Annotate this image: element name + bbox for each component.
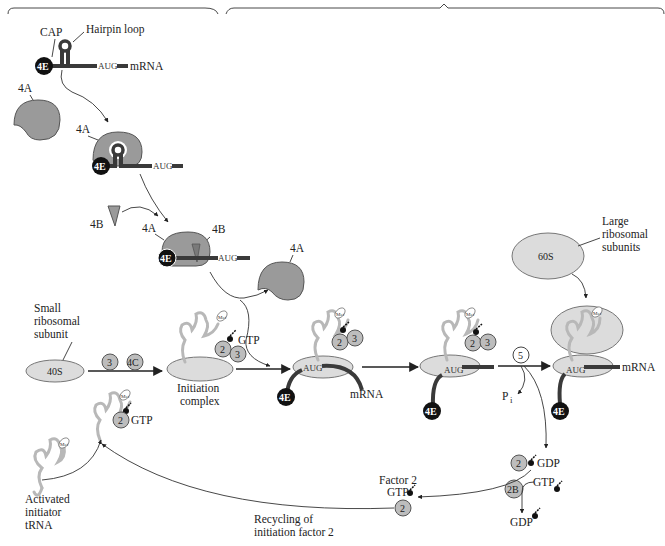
factor-4a-label: 4A <box>142 222 157 234</box>
factor-4e-label: 4E <box>160 253 172 264</box>
factor-4a-label: 4A <box>18 82 33 94</box>
40s-label: 40S <box>47 366 63 377</box>
aug-complex: Met 2 3 AUG 4E <box>420 306 496 420</box>
ternary-complex: Met 2 GTP <box>95 388 153 440</box>
step2-4a-bound: 4A AUG 4E <box>76 123 183 175</box>
svg-text:GTP: GTP <box>131 414 153 426</box>
svg-text:4E: 4E <box>425 406 437 417</box>
svg-text:Met: Met <box>121 394 130 399</box>
large-ribosomal-subunit: 60S Large ribosomal subunits <box>512 215 648 298</box>
factor-5: 5 P i <box>502 347 546 448</box>
svg-text:Met: Met <box>336 312 345 317</box>
svg-text:ribosomal: ribosomal <box>602 228 648 240</box>
svg-text:2: 2 <box>470 338 475 349</box>
final-ribosome: Met AUG mRNA 4E <box>551 305 656 420</box>
svg-text:Initiation: Initiation <box>177 382 219 394</box>
svg-text:subunit: subunit <box>34 328 69 340</box>
factor-4b-label: 4B <box>212 223 226 235</box>
svg-text:AUG: AUG <box>566 365 586 375</box>
svg-text:complex: complex <box>180 395 220 408</box>
svg-text:GDP: GDP <box>537 457 560 469</box>
factor-4b-label: 4B <box>90 218 104 230</box>
svg-text:Met: Met <box>466 312 475 317</box>
svg-text:AUG: AUG <box>444 365 464 375</box>
svg-text:5: 5 <box>518 350 523 361</box>
svg-text:Activated: Activated <box>25 493 70 505</box>
small-ribosomal-subunit: Small ribosomal subunit 40S <box>26 302 84 382</box>
svg-text:GTP: GTP <box>238 334 260 346</box>
svg-text:2: 2 <box>400 503 405 514</box>
svg-text:P: P <box>502 390 508 402</box>
svg-text:i: i <box>510 395 513 405</box>
factor-4a-free: 4A <box>14 82 60 140</box>
svg-text:initiation factor 2: initiation factor 2 <box>254 526 334 538</box>
scanning-complex: Met 2 3 AUG 4E mRNA <box>277 306 384 406</box>
factor-4a-label: 4A <box>76 123 91 135</box>
aug-codon: AUG <box>98 61 118 71</box>
svg-text:Recycling of: Recycling of <box>254 513 313 526</box>
svg-text:4E: 4E <box>553 406 565 417</box>
svg-text:Met: Met <box>218 315 227 320</box>
factor-4e-label: 4E <box>94 161 106 172</box>
svg-text:3: 3 <box>107 357 112 368</box>
mrna-with-cap-and-hairpin: CAP Hairpin loop AUG mRNA 4E <box>35 23 164 75</box>
initiation-complex: Met GTP 2 3 Initiation complex <box>167 309 260 408</box>
60s-label: 60S <box>538 251 554 262</box>
svg-text:2: 2 <box>516 458 521 469</box>
activated-initiator-trna: Met Activated initiator tRNA <box>25 436 101 531</box>
mrna-label: mRNA <box>130 60 164 72</box>
svg-text:Small: Small <box>34 302 61 314</box>
svg-text:Met: Met <box>60 442 69 447</box>
factor-2-recycling: 2 GDP 2B GTP GDP Factor 2 GTP 2 Recyclin… <box>102 444 562 538</box>
svg-text:4C: 4C <box>127 357 139 368</box>
svg-text:Met: Met <box>593 311 602 316</box>
factor-4e-label: 4E <box>37 61 49 72</box>
svg-text:GTP: GTP <box>533 476 555 488</box>
svg-text:4E: 4E <box>279 392 291 403</box>
translation-initiation-diagram: CAP Hairpin loop AUG mRNA 4E 4A 4A AUG 4… <box>0 0 665 546</box>
svg-text:2: 2 <box>220 344 225 355</box>
factor-4b-free: 4B <box>90 206 120 230</box>
step3-4a-4b-complex: 4A 4B AUG 4E <box>142 222 250 267</box>
svg-text:initiator: initiator <box>25 506 62 518</box>
top-bracket <box>8 4 664 14</box>
aug-codon: AUG <box>153 161 173 171</box>
svg-text:subunits: subunits <box>602 241 641 253</box>
svg-text:2: 2 <box>118 415 123 426</box>
svg-text:mRNA: mRNA <box>622 361 656 373</box>
factor-4a-label: 4A <box>290 242 305 254</box>
svg-text:AUG: AUG <box>303 363 323 373</box>
svg-text:Factor 2: Factor 2 <box>379 474 417 486</box>
svg-text:Large: Large <box>602 215 629 228</box>
hairpin-loop-label: Hairpin loop <box>86 23 145 36</box>
svg-text:3: 3 <box>352 333 357 344</box>
svg-text:3: 3 <box>485 337 490 348</box>
svg-text:GTP: GTP <box>387 486 409 498</box>
aug-codon: AUG <box>218 253 238 263</box>
cap-label: CAP <box>40 26 62 38</box>
svg-text:2: 2 <box>337 337 342 348</box>
svg-text:mRNA: mRNA <box>350 388 384 400</box>
svg-text:3: 3 <box>235 349 240 360</box>
svg-text:tRNA: tRNA <box>25 519 53 531</box>
factor-4a-shape <box>14 100 60 140</box>
svg-text:ribosomal: ribosomal <box>34 315 80 327</box>
svg-text:2B: 2B <box>507 484 519 495</box>
svg-text:GDP: GDP <box>510 516 533 528</box>
